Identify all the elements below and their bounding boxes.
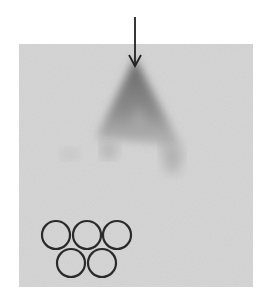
arrow-indicator bbox=[129, 17, 141, 66]
gel-figure bbox=[0, 0, 272, 304]
